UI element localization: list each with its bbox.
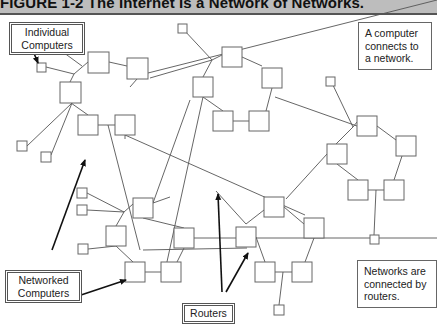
router-node <box>264 197 284 217</box>
computer-node <box>78 244 88 254</box>
connection-line <box>74 62 88 74</box>
connection-line <box>153 197 170 203</box>
computer-node <box>77 188 87 198</box>
connection-line <box>116 212 124 226</box>
router-node <box>60 82 81 103</box>
router-node <box>348 180 368 200</box>
connection-line <box>130 79 137 87</box>
router-node <box>304 218 324 238</box>
connection-line <box>109 62 127 66</box>
callout-arrow <box>218 194 222 292</box>
connection-line <box>143 248 247 250</box>
connection-line <box>27 103 72 146</box>
router-node <box>327 144 347 164</box>
note-line: Networks are <box>364 265 430 278</box>
computer-node <box>37 63 46 72</box>
label-line: Routers <box>189 307 228 320</box>
router-node <box>174 228 194 248</box>
connection-line <box>246 210 264 224</box>
connection-line <box>374 190 376 235</box>
connection-line <box>275 97 357 126</box>
note-line: routers. <box>364 290 430 303</box>
computer-node <box>178 24 187 33</box>
connection-line <box>153 100 190 203</box>
connection-line <box>87 193 124 212</box>
router-nodes <box>60 47 416 282</box>
router-node <box>193 77 213 97</box>
router-node <box>78 115 98 135</box>
router-node <box>255 262 275 282</box>
connection-line <box>163 97 203 280</box>
router-node <box>236 227 256 247</box>
router-node <box>127 58 148 79</box>
router-node <box>106 226 126 246</box>
connection-line <box>286 154 327 199</box>
connection-line <box>242 57 262 66</box>
router-node <box>133 198 153 218</box>
computer-node <box>274 305 284 315</box>
note-computer-connects: A computer connects to a network. <box>358 22 432 70</box>
computer-node <box>370 235 379 244</box>
router-node <box>249 111 269 131</box>
router-node <box>213 111 233 131</box>
connection-line <box>116 246 133 262</box>
connection-line <box>51 103 72 155</box>
computer-node <box>17 141 27 151</box>
router-node <box>222 47 242 67</box>
connection-line <box>87 210 124 212</box>
connection-line <box>150 60 212 78</box>
computer-node <box>326 77 335 86</box>
connection-line <box>71 103 88 115</box>
router-node <box>125 262 145 282</box>
router-node <box>357 116 377 136</box>
router-node <box>292 262 312 282</box>
callout-arrow <box>226 253 248 292</box>
label-networked-computers: Networked Computers <box>5 270 82 303</box>
label-line: Networked <box>12 274 75 287</box>
connection-line <box>337 164 358 180</box>
note-line: A computer <box>365 27 425 40</box>
connection-line <box>394 156 402 180</box>
callout-arrow <box>78 280 126 296</box>
connection-line <box>279 272 283 305</box>
router-node <box>115 115 135 135</box>
computer-node <box>77 205 87 215</box>
connection-line <box>70 74 74 82</box>
label-line: Individual <box>16 26 78 39</box>
connection-line <box>46 67 74 74</box>
note-line: connects to <box>365 40 425 53</box>
router-node <box>262 68 282 88</box>
label-individual-computers: Individual Computers <box>9 22 85 55</box>
connection-line <box>284 207 304 224</box>
connection-line <box>377 126 396 140</box>
label-routers: Routers <box>182 303 235 324</box>
connection-line <box>177 248 184 262</box>
router-node <box>384 180 404 200</box>
label-line: Computers <box>12 287 75 300</box>
connection-line <box>203 97 223 111</box>
computer-node <box>41 152 51 162</box>
note-networks-connected: Networks are connected by routers. <box>357 260 437 308</box>
connection-line <box>305 238 314 262</box>
connection-line <box>266 88 272 111</box>
connection-line <box>143 218 184 228</box>
note-line: connected by <box>364 278 430 291</box>
router-node <box>88 52 109 73</box>
label-line: Computers <box>16 39 78 52</box>
connection-line <box>336 127 353 144</box>
connection-line <box>183 29 212 60</box>
connection-line <box>256 237 265 262</box>
connection-line <box>216 191 246 224</box>
connection-line <box>331 81 353 127</box>
router-node <box>396 136 416 156</box>
note-line: a network. <box>365 52 425 65</box>
router-node <box>161 262 181 282</box>
